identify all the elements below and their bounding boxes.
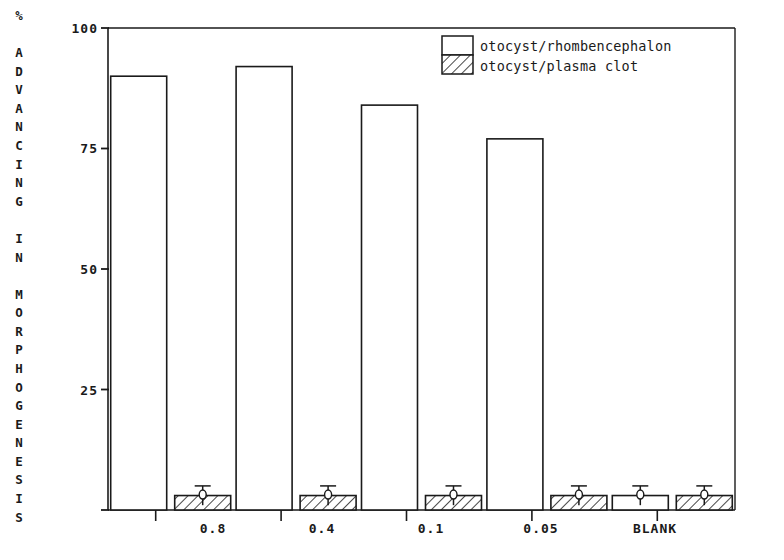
bar-otocyst-rhombencephalon-0.1 — [362, 105, 418, 510]
x-axis-ticks — [156, 510, 658, 521]
errorbar-marker — [637, 490, 644, 499]
errorbar-marker — [325, 490, 332, 499]
errorbar-marker — [450, 490, 457, 499]
bar-otocyst-rhombencephalon-0.05 — [487, 139, 543, 510]
errorbar-marker — [701, 490, 708, 499]
bars — [111, 67, 733, 510]
bar-otocyst-rhombencephalon-0.8 — [111, 76, 167, 510]
errorbar-marker — [199, 490, 206, 499]
legend-swatch-plasma-clot — [442, 55, 473, 74]
bar-otocyst-rhombencephalon-0.4 — [236, 67, 292, 510]
legend-swatches — [442, 36, 473, 74]
bar-chart-figure: % ADVANCING IN MORPHOGENESIS 100 75 50 2… — [0, 0, 784, 560]
errorbar-marker — [575, 490, 582, 499]
axes — [108, 28, 735, 510]
legend-swatch-rhombencephalon — [442, 36, 473, 55]
plot-area — [0, 0, 784, 560]
